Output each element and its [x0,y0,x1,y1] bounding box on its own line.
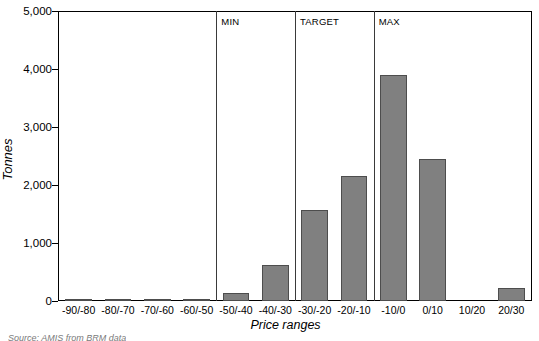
bar [144,299,171,301]
bar [105,299,132,301]
bar-slot [138,11,177,301]
x-tick-label: -60/-50 [177,304,216,316]
bar [419,159,446,301]
x-tick-label: 10/20 [452,304,491,316]
bar [341,176,368,301]
bar-slot [256,11,295,301]
bar-series [59,11,531,301]
bar-slot [216,11,255,301]
x-tick-label: 0/10 [413,304,452,316]
x-tick-label: -70/-60 [138,304,177,316]
y-tick-label: 0 [0,295,52,307]
y-tick-label: 3,000 [0,121,52,133]
x-tick-label: -90/-80 [59,304,98,316]
bar [183,299,210,301]
x-tick-label: 20/30 [492,304,531,316]
x-tick-label: -20/-10 [334,304,373,316]
x-tick-label: -10/0 [374,304,413,316]
bar-slot [452,11,491,301]
x-axis-title-text: Price ranges [250,318,320,332]
y-tick-label: 4,000 [0,63,52,75]
bar [65,299,92,301]
bar-slot [492,11,531,301]
x-tick-label: -50/-40 [216,304,255,316]
bar-slot [334,11,373,301]
bar-slot [59,11,98,301]
y-tick-label: 2,000 [0,179,52,191]
bar-slot [413,11,452,301]
x-tick-label: -80/-70 [98,304,137,316]
y-axis-title: Tonnes [0,138,15,180]
bar-slot [98,11,137,301]
source-note: Source: AMIS from BRM data [8,333,126,341]
x-tick-label: -30/-20 [295,304,334,316]
x-tick-label: -40/-30 [256,304,295,316]
bar [301,210,328,301]
y-tick-label: 1,000 [0,237,52,249]
bar [262,265,289,301]
bar [380,75,407,301]
bar-slot [374,11,413,301]
bar-slot [295,11,334,301]
bar [498,288,525,301]
bar-chart: Tonnes 5,0004,0003,0002,0001,0000 MINTAR… [0,0,539,341]
y-tick-label: 5,000 [0,5,52,17]
bar-slot [177,11,216,301]
x-axis-title: Price ranges [0,318,539,332]
y-tick-mark [52,301,58,302]
bar [223,293,250,301]
